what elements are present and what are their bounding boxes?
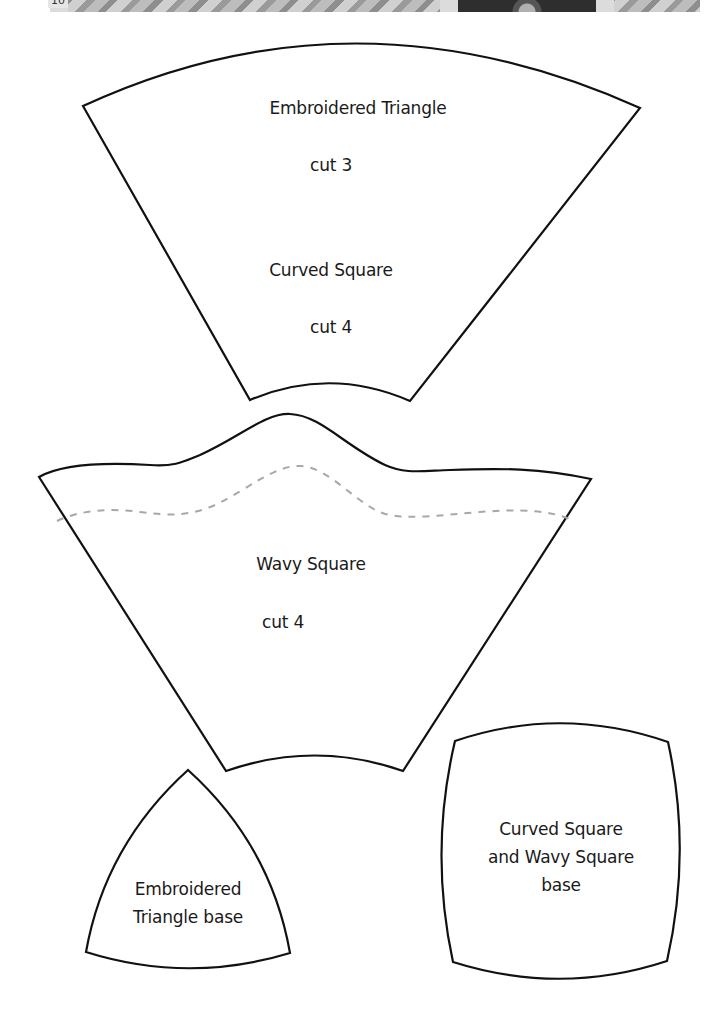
label-cut-4: cut 4 [310,315,352,339]
wavy-square-template-outline [39,414,591,771]
label-square-base-line2: and Wavy Square [488,845,634,869]
label-square-base-line3: base [541,873,581,897]
label-wavy-square: Wavy Square [256,552,365,576]
label-triangle-base-line1: Embroidered [135,877,242,901]
triangle-base-template-outline [86,770,290,968]
label-triangle-base-line2: Triangle base [133,905,243,929]
label-embroidered-triangle: Embroidered Triangle [269,96,446,120]
label-wavy-cut-4: cut 4 [262,610,304,634]
wavy-stitch-line [57,466,572,521]
label-cut-3: cut 3 [310,153,352,177]
label-curved-square: Curved Square [269,258,393,282]
label-square-base-line1: Curved Square [499,817,623,841]
